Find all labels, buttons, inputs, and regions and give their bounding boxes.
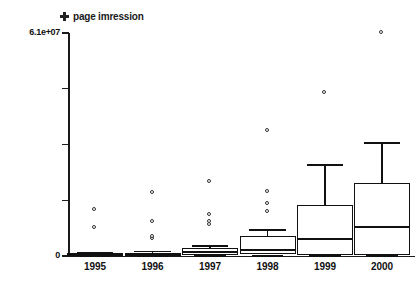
outlier-point xyxy=(207,219,211,223)
whisker-stem xyxy=(152,252,153,253)
y-axis-tick-label: 0 xyxy=(55,250,60,260)
outlier-point xyxy=(265,189,269,193)
box-plot-chart: page imression 6.1e+070 1995199619971998… xyxy=(0,0,418,287)
outlier-point xyxy=(92,207,96,211)
box-iqr xyxy=(354,183,410,255)
median-line xyxy=(354,226,410,228)
y-axis-tick xyxy=(62,144,69,145)
whisker-cap-upper xyxy=(77,252,114,254)
outlier-point xyxy=(150,219,154,223)
whisker-cap-upper xyxy=(134,251,171,253)
outlier-point xyxy=(207,212,211,216)
whisker-stem xyxy=(381,143,382,183)
median-line xyxy=(297,238,353,240)
y-axis-tick xyxy=(62,255,69,256)
whisker-cap-upper xyxy=(307,164,344,166)
outlier-point xyxy=(265,209,269,213)
whisker-stem xyxy=(94,253,95,254)
x-axis-tick-label: 1995 xyxy=(65,261,125,272)
outlier-point xyxy=(379,30,383,34)
outlier-point xyxy=(265,201,269,205)
whisker-stem xyxy=(267,230,268,236)
x-axis-line xyxy=(68,256,415,257)
outlier-point xyxy=(265,128,269,132)
x-axis-tick-label: 1997 xyxy=(180,261,240,272)
outlier-point xyxy=(150,190,154,194)
whisker-stem xyxy=(209,246,210,248)
box-iqr xyxy=(182,248,238,255)
box-iqr xyxy=(240,236,296,254)
y-axis-tick xyxy=(62,200,69,201)
y-axis-tick xyxy=(62,88,69,89)
whisker-cap-upper xyxy=(249,229,286,231)
outlier-point xyxy=(150,236,154,240)
chart-title-text: page imression xyxy=(73,11,144,22)
chart-title-legend: page imression xyxy=(60,11,144,22)
outlier-point xyxy=(207,222,211,226)
x-axis-tick-label: 1999 xyxy=(295,261,355,272)
outlier-point xyxy=(207,179,211,183)
outlier-point xyxy=(322,90,326,94)
whisker-stem xyxy=(324,165,325,205)
whisker-cap-upper xyxy=(364,142,401,144)
plus-marker-icon xyxy=(60,12,69,21)
y-axis-tick xyxy=(62,32,69,33)
whisker-cap-upper xyxy=(192,245,229,247)
x-axis-tick-label: 1996 xyxy=(123,261,183,272)
median-line xyxy=(240,249,296,251)
outlier-point xyxy=(150,234,154,238)
y-axis-tick-label: 6.1e+07 xyxy=(29,27,60,37)
median-line xyxy=(182,251,238,253)
outlier-point xyxy=(92,225,96,229)
x-axis-tick-label: 2000 xyxy=(352,261,412,272)
box-iqr xyxy=(297,205,353,255)
x-axis-tick-label: 1998 xyxy=(238,261,298,272)
